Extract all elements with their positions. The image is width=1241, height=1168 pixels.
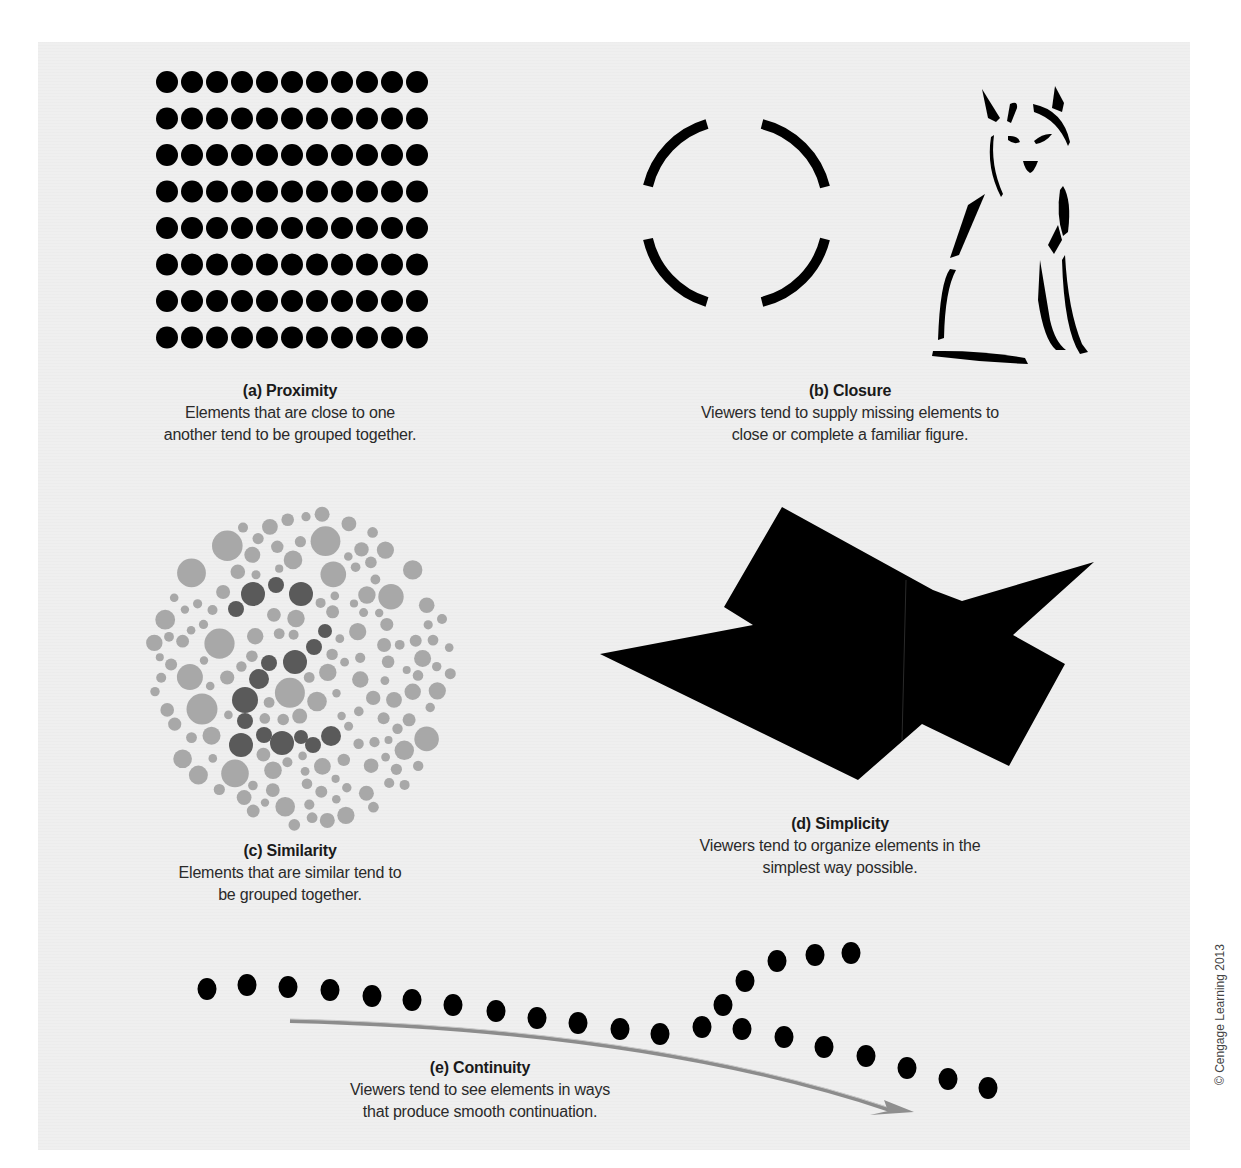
caption-simplicity: (d) Simplicity Viewers tend to organize … [665,813,1015,879]
caption-simplicity-line-1: Viewers tend to organize elements in the [665,835,1015,857]
figure-illustrations [0,0,1241,1168]
caption-closure-line-2: close or complete a familiar figure. [660,424,1040,446]
copyright-credit: © Cengage Learning 2013 [1213,944,1227,1085]
caption-similarity: (c) Similarity Elements that are similar… [140,840,440,906]
caption-simplicity-title: (d) Simplicity [665,813,1015,835]
similarity-color-plate [146,507,456,831]
caption-proximity-title: (a) Proximity [130,380,450,402]
caption-proximity-line-2: another tend to be grouped together. [130,424,450,446]
caption-closure-title: (b) Closure [660,380,1040,402]
closure-fox-figure [932,86,1088,364]
simplicity-overlapping-shapes [600,507,1094,780]
caption-continuity-line-2: that produce smooth continuation. [310,1101,650,1123]
caption-similarity-line-1: Elements that are similar tend to [140,862,440,884]
caption-continuity: (e) Continuity Viewers tend to see eleme… [310,1057,650,1123]
caption-continuity-line-1: Viewers tend to see elements in ways [310,1079,650,1101]
caption-closure-line-1: Viewers tend to supply missing elements … [660,402,1040,424]
caption-simplicity-line-2: simplest way possible. [665,857,1015,879]
caption-continuity-title: (e) Continuity [310,1057,650,1079]
caption-proximity-line-1: Elements that are close to one [130,402,450,424]
caption-similarity-title: (c) Similarity [140,840,440,862]
caption-proximity: (a) Proximity Elements that are close to… [130,380,450,446]
proximity-dot-grid [156,71,428,349]
caption-closure: (b) Closure Viewers tend to supply missi… [660,380,1040,446]
caption-similarity-line-2: be grouped together. [140,884,440,906]
closure-broken-circle [648,124,825,302]
